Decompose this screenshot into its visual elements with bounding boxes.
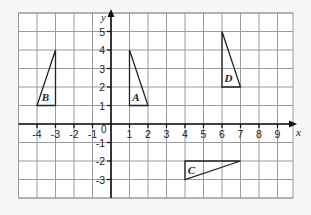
y-tick-label: 1	[99, 100, 105, 112]
y-tick-label: -3	[96, 174, 105, 186]
x-tick-label: 3	[164, 128, 170, 140]
triangle-label: D	[223, 72, 232, 84]
y-tick-label: -2	[96, 155, 105, 167]
x-tick-label: 4	[182, 128, 188, 140]
coordinate-diagram: x y 0 -4-3-2-112345678954321-1-2-3 ABCD	[0, 0, 311, 215]
x-tick-label: 1	[127, 128, 133, 140]
y-tick-label: 5	[99, 26, 105, 38]
y-tick-label: 4	[99, 44, 105, 56]
x-tick-label: 8	[256, 128, 262, 140]
y-tick-label: -1	[96, 137, 105, 149]
x-tick-label: 2	[145, 128, 151, 140]
x-tick-label: 6	[219, 128, 225, 140]
x-tick-label: -4	[32, 128, 41, 140]
origin-label: 0	[101, 124, 107, 135]
x-tick-label: 7	[238, 128, 244, 140]
triangle-label: C	[188, 164, 196, 176]
x-tick-label: -2	[69, 128, 78, 140]
triangle-label: B	[41, 91, 49, 103]
x-tick-label: 9	[275, 128, 281, 140]
x-tick-label: -3	[51, 128, 60, 140]
y-axis-label: y	[100, 11, 106, 23]
triangle-label: A	[131, 91, 139, 103]
grid-canvas: x y 0 -4-3-2-112345678954321-1-2-3 ABCD	[0, 0, 311, 215]
y-tick-label: 3	[99, 63, 105, 75]
x-axis-label: x	[295, 126, 301, 138]
y-tick-label: 2	[99, 81, 105, 93]
x-tick-label: 5	[201, 128, 207, 140]
